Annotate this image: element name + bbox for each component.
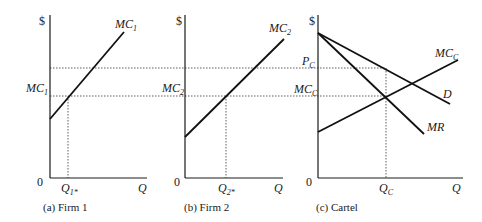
cartel-dollar-label: $ [309,14,315,28]
cartel-q-tick-label: QC [379,181,394,197]
firm2-mc-curve [185,39,284,137]
firm2-mc-tick-label: MC2 [161,81,184,97]
panel-firm1: $ 0 Q MC1 MC1 Q1* (a) Firm 1 [25,14,147,214]
cartel-mc-tick-label: MCC [293,82,318,98]
cartel-q-axis-label: Q [452,181,461,195]
firm2-origin-label: 0 [174,175,180,189]
firm1-q-axis-label: Q [138,181,147,195]
firm1-mc-tick-label: MC1 [25,81,48,97]
cartel-mr-curve [318,33,424,134]
firm1-mc-curve [50,32,124,119]
panel-cartel: $ 0 Q MCC D MR PC MCC QC (c) Cartel [293,14,463,214]
firm2-mc-curve-label: MC2 [268,21,291,37]
firm2-q-tick-label: Q2* [218,181,235,197]
cartel-price-tick-label: PC [301,54,315,70]
firm1-q-tick-label: Q1* [61,181,78,197]
cartel-caption: (c) Cartel [316,201,358,214]
firm1-origin-label: 0 [37,175,43,189]
firm2-dollar-label: $ [176,14,182,28]
firm1-dollar-label: $ [39,14,45,28]
cartel-mr-label: MR [426,120,445,134]
firm2-q-axis-label: Q [274,181,283,195]
cartel-diagram: $ 0 Q MC1 MC1 Q1* (a) Firm 1 $ 0 Q MC2 M… [0,0,482,222]
firm1-caption: (a) Firm 1 [43,201,88,214]
firm2-caption: (b) Firm 2 [184,201,229,214]
firm1-mc-curve-label: MC1 [114,17,137,33]
panel-firm2: $ 0 Q MC2 MC2 Q2* (b) Firm 2 [161,14,291,214]
cartel-origin-label: 0 [306,175,312,189]
cartel-demand-curve [318,33,450,104]
cartel-mc-curve-label: MCC [434,46,459,62]
cartel-demand-label: D [442,87,452,101]
